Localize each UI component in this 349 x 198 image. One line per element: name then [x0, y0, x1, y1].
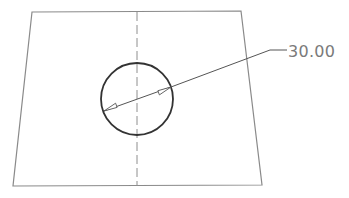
- dimension-arrowhead-right-icon: [158, 87, 171, 95]
- dimension-arrowhead-left-icon: [104, 103, 117, 111]
- drawing-canvas: 30.00: [0, 0, 349, 198]
- diameter-dimension-line: [104, 50, 287, 111]
- dimension-value-text: 30.00: [288, 42, 335, 61]
